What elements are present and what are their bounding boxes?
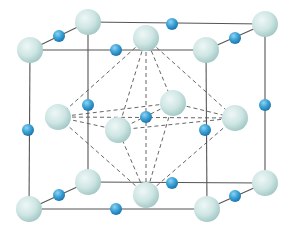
small-atom-edge-top-right: [229, 32, 241, 44]
large-atom-corner-front-bottom-left: [16, 196, 42, 222]
large-atom-corner-front-top-left: [17, 37, 43, 63]
large-atom-corner-back-bottom-left: [75, 169, 101, 195]
octahedron-edge: [58, 103, 173, 117]
unit-cell-svg: [0, 0, 298, 237]
small-atom-edge-front-right-vertical: [199, 124, 211, 136]
small-atom-edge-top-left: [53, 30, 65, 42]
large-atom-face-back-center: [160, 90, 186, 116]
large-atom-face-top-center: [133, 25, 159, 51]
small-atom-edge-bottom-front: [110, 203, 122, 215]
large-atom-corner-back-top-right: [252, 11, 278, 37]
octahedron-edge: [118, 118, 235, 130]
small-atom-edge-top-front: [110, 44, 122, 56]
octahedron-edge: [58, 117, 146, 195]
small-atom-edge-bottom-right: [229, 190, 241, 202]
large-atom-corner-front-top-right: [193, 37, 219, 63]
large-atom-face-front-center: [105, 117, 131, 143]
small-atom-edge-bottom-left: [53, 189, 65, 201]
small-atom-edge-back-right-vertical: [259, 99, 271, 111]
large-atom-face-bottom-center: [133, 182, 159, 208]
large-atom-face-right-center: [222, 105, 248, 131]
octahedron-edge: [146, 118, 235, 195]
large-atom-face-left-center: [45, 104, 71, 130]
small-atom-edge-front-left-vertical: [22, 124, 34, 136]
crystal-structure-diagram: [0, 0, 298, 237]
small-atom-edge-back-left-vertical: [82, 99, 94, 111]
small-atom-edge-bottom-back: [166, 177, 178, 189]
large-atom-corner-back-bottom-right: [252, 170, 278, 196]
large-atom-corner-front-bottom-right: [194, 196, 220, 222]
large-atom-corner-back-top-left: [75, 9, 101, 35]
small-atom-body-center: [140, 111, 152, 123]
atoms: [16, 9, 278, 222]
small-atom-edge-top-back: [166, 18, 178, 30]
